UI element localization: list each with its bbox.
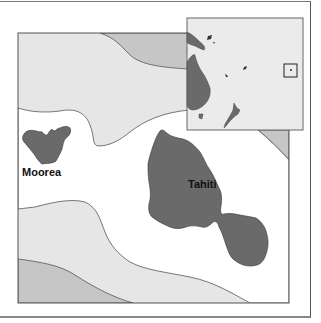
map-canvas: Moorea Tahiti [0,0,321,323]
label-tahiti: Tahiti [188,178,217,190]
inset-tahiti-dot [290,69,292,71]
inset-sea [187,18,303,130]
inset-map [187,18,303,130]
label-moorea: Moorea [22,166,62,178]
